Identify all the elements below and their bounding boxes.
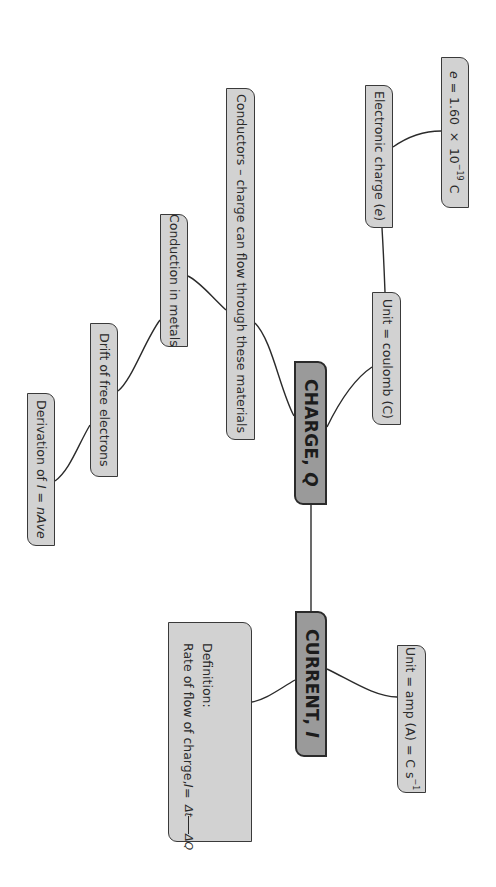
node-electronic-charge: Electronic charge (e): [365, 85, 393, 228]
definition-title: Definition:: [198, 643, 217, 851]
electronic-charge-text: Electronic charge (e): [373, 91, 386, 221]
charge-label: CHARGE,: [301, 379, 321, 472]
definition-eq: =: [179, 788, 198, 798]
node-unit-amp: Unit = amp (A) = C s−1: [397, 645, 426, 793]
node-drift-electrons: Drift of free electrons: [90, 323, 118, 477]
definition-content: Definition: Rate of flow of charge, I = …: [179, 643, 217, 851]
electronic-charge-symbol: e: [372, 209, 387, 217]
unit-amp-label: Unit = amp (A) = C s: [403, 647, 418, 779]
electronic-charge-label: Electronic charge (: [372, 91, 387, 208]
node-e-value: e = 1.60 × 10−19 C: [441, 57, 469, 208]
e-value-unit: C: [447, 181, 462, 194]
derivation-rhs: nAve: [34, 507, 49, 539]
definition-line: Rate of flow of charge, I = ΔQΔt: [179, 643, 198, 851]
node-unit-coulomb: Unit = coulomb (C): [372, 292, 401, 425]
fraction-denominator: Δt: [179, 805, 198, 817]
conductors-label: Conductors – charge can flow through the…: [234, 94, 247, 433]
derivation-eq: =: [34, 489, 49, 507]
node-charge: CHARGE, Q: [294, 361, 327, 505]
definition-text: Rate of flow of charge,: [179, 643, 198, 784]
fraction-numerator: ΔQ: [179, 834, 198, 850]
unit-amp-exponent: −1: [411, 779, 420, 791]
derivation-text: Derivation of I = nAve: [35, 400, 48, 539]
charge-title: CHARGE, Q: [302, 379, 319, 487]
electronic-charge-suffix: ): [372, 217, 387, 222]
edge-drift-derivation: [55, 425, 90, 481]
e-value-text: e = 1.60 × 10−19 C: [447, 71, 463, 193]
conduction-metals-label: Conduction in metals: [168, 214, 181, 347]
current-symbol: I: [302, 732, 322, 739]
node-current: CURRENT, I: [295, 611, 327, 757]
unit-amp-text: Unit = amp (A) = C s−1: [404, 647, 420, 790]
fraction-bar: [188, 816, 189, 834]
edge-electronic-charge-e-value: [393, 131, 441, 147]
definition-fraction: ΔQΔt: [179, 805, 198, 851]
node-definition: Definition: Rate of flow of charge, I = …: [168, 622, 252, 842]
node-derivation: Derivation of I = nAve: [27, 393, 55, 546]
derivation-label: Derivation of: [34, 400, 49, 485]
current-label: CURRENT,: [302, 629, 322, 732]
drift-electrons-label: Drift of free electrons: [98, 333, 111, 467]
node-conductors: Conductors – charge can flow through the…: [226, 88, 255, 440]
e-value-label: = 1.60 × 10: [447, 79, 462, 164]
edge-conductors-conduction-metals: [188, 276, 226, 310]
e-value-exponent: −19: [455, 164, 464, 181]
edge-charge-unit-coulomb: [327, 367, 372, 427]
unit-coulomb-label: Unit = coulomb (C): [380, 299, 393, 419]
edge-unit-coulomb-electronic-charge: [382, 228, 385, 292]
edge-current-unit-amp: [327, 669, 397, 697]
edge-conduction-metals-drift: [118, 320, 160, 391]
current-title: CURRENT, I: [303, 629, 320, 738]
e-symbol: e: [447, 71, 462, 79]
edge-current-definition: [252, 680, 295, 702]
edge-charge-conductors: [255, 323, 294, 416]
charge-symbol: Q: [301, 472, 321, 487]
node-conduction-metals: Conduction in metals: [160, 214, 188, 347]
